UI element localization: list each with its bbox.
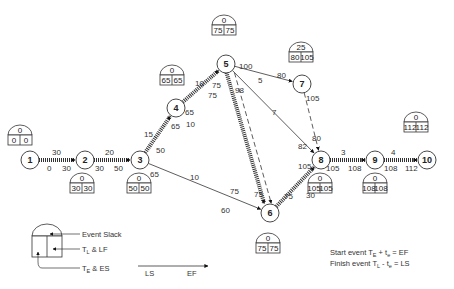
network-diagram: 12345678910 0000303005050065650757507575… — [0, 0, 454, 289]
event-slack: 25 — [297, 43, 306, 52]
activity-label: 65 — [171, 122, 180, 131]
activity-label: 112 — [405, 164, 418, 173]
activity-label: 80 — [277, 71, 286, 80]
tl-lf: 65 — [174, 76, 183, 85]
event-box-9: 0108108 — [362, 173, 388, 193]
legend-key: Event Slack TL & LF TE & ES LS EF — [32, 224, 208, 278]
activity-label: 98 — [235, 86, 244, 95]
te-es: 65 — [162, 76, 171, 85]
event-node-3: 3 — [131, 151, 149, 169]
activity-edges — [39, 66, 417, 209]
svg-text:10: 10 — [422, 155, 432, 165]
activity-label: 105 — [298, 162, 312, 171]
activity-label: 30 — [62, 164, 71, 173]
activity-label: 4 — [391, 148, 396, 157]
event-box-6: 07575 — [256, 233, 280, 253]
event-slack: 0 — [266, 234, 271, 243]
activity-label: 30 — [306, 191, 315, 200]
event-node-9: 9 — [366, 151, 384, 169]
activity-label: 30 — [95, 164, 104, 173]
te-es: 75 — [258, 244, 267, 253]
activity-label: 75 — [254, 190, 263, 199]
formula-start-event: Start event TE + te = EF — [330, 248, 409, 258]
legend-ef: EF — [187, 269, 197, 278]
activity-label: 65 — [150, 170, 159, 179]
event-box-1: 000 — [8, 125, 32, 145]
activity-label: 3 — [341, 148, 346, 157]
activity-label: 75 — [230, 187, 239, 196]
svg-text:3: 3 — [137, 155, 142, 165]
activity-label: 10 — [186, 120, 195, 129]
activity-label: 30 — [52, 148, 61, 157]
svg-text:1: 1 — [27, 155, 32, 165]
tl-lf: 105 — [319, 184, 333, 193]
legend-tl-lf: TL & LF — [82, 245, 108, 255]
event-slack: 0 — [170, 66, 175, 75]
formula-finish-event: Finish event TL - te = LS — [330, 259, 410, 269]
activity-label: 50 — [156, 146, 165, 155]
event-box-3: 05050 — [127, 173, 151, 193]
activity-label: 75 — [212, 81, 221, 90]
activity-label: 50 — [114, 164, 123, 173]
event-node-4: 4 — [167, 99, 185, 117]
event-slack: 0 — [80, 174, 85, 183]
tl-lf: 75 — [226, 26, 235, 35]
activity-label: 82 — [298, 142, 307, 151]
event-box-7: 2580105 — [289, 42, 314, 62]
activity-label: 108 — [384, 164, 398, 173]
te-es: 80 — [291, 53, 300, 62]
te-es: 30 — [72, 184, 81, 193]
activity-label: 7 — [272, 108, 277, 117]
activity-label: 5 — [258, 76, 263, 85]
event-box-10: 0112112 — [404, 112, 429, 132]
event-slack: 0 — [137, 174, 142, 183]
event-node-7: 7 — [293, 75, 311, 93]
event-node-1: 1 — [21, 151, 39, 169]
activity-label: 15 — [144, 130, 153, 139]
svg-text:4: 4 — [173, 103, 178, 113]
legend-event-slack: Event Slack — [82, 230, 122, 239]
te-es: 50 — [129, 184, 138, 193]
event-box-5: 07575 — [212, 15, 236, 35]
event-nodes: 12345678910 — [21, 55, 436, 222]
event-box-8: 0105105 — [307, 173, 333, 193]
legend-ls: LS — [145, 269, 154, 278]
event-slack: 0 — [414, 113, 419, 122]
event-boxes: 0000303005050065650757507575258010501051… — [8, 15, 429, 253]
activity-label: 60 — [221, 206, 230, 215]
activity-label: 20 — [105, 148, 114, 157]
event-box-2: 03030 — [70, 173, 94, 193]
activity-label: 75 — [284, 192, 293, 201]
svg-text:7: 7 — [299, 79, 304, 89]
tl-lf: 30 — [84, 184, 93, 193]
activity-label: 0 — [47, 164, 52, 173]
activity-label: 100 — [239, 62, 253, 71]
activity-label: 108 — [348, 164, 362, 173]
activity-label: 65 — [185, 108, 194, 117]
te-es: 0 — [12, 136, 17, 145]
activity-label: 10 — [190, 173, 199, 182]
tl-lf: 112 — [416, 123, 429, 132]
svg-text:9: 9 — [372, 155, 377, 165]
svg-text:6: 6 — [267, 208, 272, 218]
event-slack: 0 — [18, 126, 23, 135]
legend-te-es: TE & ES — [82, 264, 109, 274]
activity-label: 10 — [195, 79, 204, 88]
event-box-4: 06565 — [160, 65, 184, 85]
tl-lf: 75 — [270, 244, 279, 253]
event-slack: 0 — [318, 174, 323, 183]
tl-lf: 0 — [24, 136, 29, 145]
activity-label: 105 — [326, 164, 340, 173]
event-slack: 0 — [222, 16, 227, 25]
tl-lf: 50 — [141, 184, 150, 193]
activity-label: 75 — [208, 91, 217, 100]
svg-text:2: 2 — [82, 155, 87, 165]
event-node-5: 5 — [217, 55, 235, 73]
te-es: 75 — [214, 26, 223, 35]
activity-label: 80 — [312, 134, 321, 143]
event-slack: 0 — [373, 174, 378, 183]
event-node-6: 6 — [261, 204, 279, 222]
svg-text:8: 8 — [318, 155, 323, 165]
svg-text:5: 5 — [223, 59, 228, 69]
tl-lf: 108 — [374, 184, 388, 193]
